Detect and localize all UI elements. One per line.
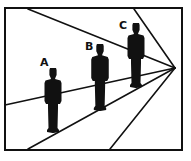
figure-a (45, 68, 62, 133)
figure-label-a: A (40, 56, 49, 69)
perspective-diagram: A B C (0, 0, 191, 161)
figure-b (91, 44, 109, 111)
person-silhouette-icon (45, 68, 62, 133)
person-silhouette-icon (91, 44, 109, 111)
figure-label-c: C (119, 19, 127, 32)
perspective-lines (5, 9, 175, 149)
figure-label-b: B (85, 40, 93, 53)
